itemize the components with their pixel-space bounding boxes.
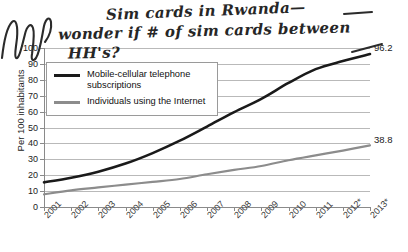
y-tick-label: 30 [14,154,38,164]
y-tick-label: 20 [14,170,38,180]
end-label-individuals-internet: 38.8 [374,134,393,145]
y-tick-label: 0 [14,202,38,212]
legend-item-mobile-cellular: Mobile-cellular telephone subscriptions [54,69,210,91]
legend-swatch-icon-mobile [54,74,80,77]
y-tick-label: 60 [14,107,38,117]
series-line-individuals-internet [44,145,370,194]
legend-label-individuals-internet: Individuals using the Internet [87,96,205,107]
legend-item-individuals-internet: Individuals using the Internet [54,96,210,107]
y-tick-label: 90 [14,59,38,69]
handwriting-line-2: wonder if # of sim cards between [58,18,351,43]
y-tick-label: 10 [14,186,38,196]
chart-root: Per 100 inhabitants 01020304050607080901… [0,0,408,252]
legend-label-mobile-cellular: Mobile-cellular telephone subscriptions [87,69,210,91]
x-tick-label: 2013* [368,196,392,220]
end-label-mobile-cellular: 96.2 [374,42,393,53]
y-tick-label: 70 [14,91,38,101]
y-tick-label: 50 [14,123,38,133]
handwriting-line-3: HH's? [68,44,120,63]
handwriting-dash-icon [344,12,372,14]
y-tick-label: 100 [14,43,38,53]
legend: Mobile-cellular telephone subscriptions … [46,62,218,116]
y-tick-label: 40 [14,138,38,148]
y-tick-label: 80 [14,75,38,85]
legend-swatch-icon-internet [54,101,80,104]
